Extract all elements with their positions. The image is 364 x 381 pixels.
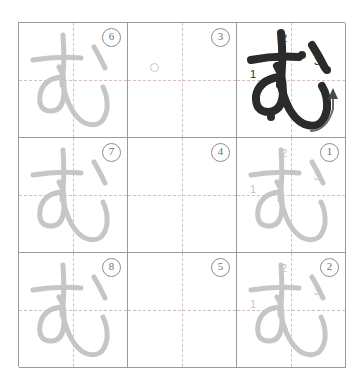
worksheet-page: 6 3 (0, 0, 364, 381)
sequence-number-badge: 7 (102, 143, 121, 162)
sequence-number-badge: 1 (320, 143, 339, 162)
practice-cell[interactable]: 8 (19, 253, 128, 368)
stroke-number-1: 1 (250, 69, 256, 80)
practice-cell[interactable]: 1 2 3 2 (237, 253, 346, 368)
stroke-direction-arrow-icon (305, 83, 345, 135)
stroke-number-3: 3 (314, 171, 320, 182)
sequence-number-badge: 5 (211, 258, 230, 277)
practice-cell[interactable]: 4 (128, 138, 237, 253)
stroke-number-3: 3 (314, 56, 320, 67)
sequence-number-badge: 6 (102, 28, 121, 47)
model-cell[interactable]: 1 2 3 (237, 23, 346, 138)
stroke-number-1: 1 (250, 299, 256, 310)
sequence-number-badge: 3 (211, 28, 230, 47)
start-point-circle-icon (150, 63, 159, 72)
stroke-number-2: 2 (281, 263, 287, 274)
practice-cell[interactable]: 1 2 3 1 (237, 138, 346, 253)
sequence-number-badge: 2 (320, 258, 339, 277)
stroke-number-1: 1 (250, 184, 256, 195)
stroke-number-2: 2 (281, 148, 287, 159)
practice-cell[interactable]: 3 (128, 23, 237, 138)
stroke-number-3: 3 (314, 286, 320, 297)
practice-grid: 6 3 (18, 22, 345, 367)
practice-cell[interactable]: 5 (128, 253, 237, 368)
sequence-number-badge: 4 (211, 143, 230, 162)
stroke-number-2: 2 (281, 33, 287, 44)
practice-cell[interactable]: 6 (19, 23, 128, 138)
practice-cell[interactable]: 7 (19, 138, 128, 253)
sequence-number-badge: 8 (102, 258, 121, 277)
